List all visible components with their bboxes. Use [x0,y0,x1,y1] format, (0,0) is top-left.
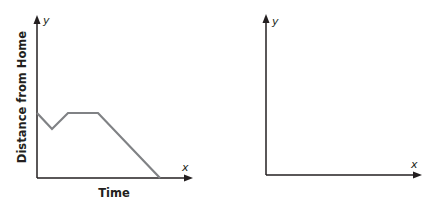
left-y-axis-title: Distance from Home [15,31,29,163]
left-x-axis-title: Time [98,186,130,200]
left-graph: y x Distance from Home Time [15,14,193,200]
left-y-variable: y [42,14,50,27]
left-x-axis-arrow-icon [184,175,193,182]
distance-time-line [37,113,160,178]
left-y-axis-arrow-icon [34,15,41,24]
right-graph: y x [263,14,423,179]
right-y-axis-arrow-icon [263,14,270,23]
left-x-variable: x [181,161,189,174]
right-x-axis-arrow-icon [413,172,422,179]
right-y-variable: y [271,15,279,28]
right-x-variable: x [410,158,418,171]
worksheet-canvas: y x Distance from Home Time y x [0,0,447,214]
